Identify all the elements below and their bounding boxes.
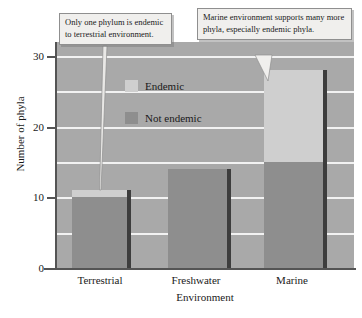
callout-leader-marine xyxy=(0,0,362,318)
chart-figure: Endemic Not endemic 30 20 10 0 Terrestri… xyxy=(0,0,362,318)
callout-marine: Marine environment supports many more ph… xyxy=(197,8,352,40)
callout-terrestrial: Only one phylum is endemic to terrestria… xyxy=(59,13,172,45)
